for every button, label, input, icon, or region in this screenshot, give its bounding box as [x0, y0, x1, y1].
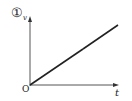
y-axis-label: v	[23, 15, 27, 22]
velocity-line	[30, 49, 83, 85]
origin-label: O	[22, 85, 29, 94]
velocity-line-upper	[83, 25, 118, 49]
y-axis-arrow-icon	[28, 16, 32, 22]
index-label: ①	[11, 6, 23, 19]
x-axis-label: t	[115, 88, 119, 98]
